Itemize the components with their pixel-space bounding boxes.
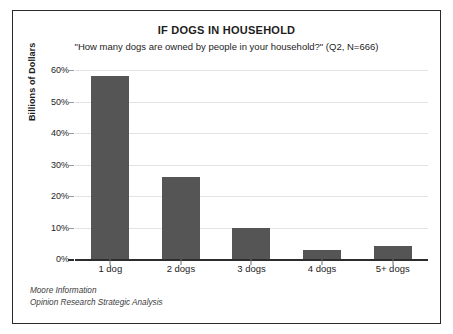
x-axis-tick-label: 4 dogs [308,263,337,274]
bar-slot [287,70,358,259]
y-axis-tick [68,228,74,229]
y-axis-tick-label: 10% [13,223,69,232]
plot-area [75,70,428,259]
bar[interactable] [374,246,412,259]
y-axis-tick [68,133,74,134]
bar-series [75,70,428,259]
bar-slot [357,70,428,259]
y-axis-tick-label: 20% [13,192,69,201]
y-axis-tick-label: 60% [13,66,69,75]
x-axis-tick-labels: 1 dog2 dogs3 dogs4 dogs5+ dogs [75,263,428,279]
bar[interactable] [303,250,341,259]
y-axis-tick [68,102,74,103]
y-axis-tick-labels: 0%10%20%30%40%50%60% [13,70,69,259]
y-axis-tick-label: 50% [13,97,69,106]
x-axis-tick-label: 3 dogs [237,263,266,274]
chart-card: IF DOGS IN HOUSEHOLD "How many dogs are … [12,10,441,324]
y-axis-tick [68,70,74,71]
y-axis-tick [68,165,74,166]
source-note: Moore Information Opinion Research Strat… [30,285,163,309]
bar[interactable] [162,177,200,259]
x-axis-tick-label: 5+ dogs [376,263,410,274]
y-axis-tick-label: 40% [13,129,69,138]
y-axis-tick-label: 30% [13,160,69,169]
chart-title: IF DOGS IN HOUSEHOLD [13,24,440,36]
bar-slot [216,70,287,259]
bar-slot [146,70,217,259]
source-line-2: Opinion Research Strategic Analysis [30,297,163,309]
y-axis-tick [68,196,74,197]
y-axis-tick-label: 0% [13,255,69,264]
bar[interactable] [232,228,270,260]
y-axis-tick [68,259,74,261]
source-line-1: Moore Information [30,285,163,297]
chart-subtitle: "How many dogs are owned by people in yo… [13,41,440,52]
bar-slot [75,70,146,259]
x-axis-tick-label: 2 dogs [167,263,196,274]
bar[interactable] [91,76,129,259]
x-axis-tick-label: 1 dog [98,263,122,274]
